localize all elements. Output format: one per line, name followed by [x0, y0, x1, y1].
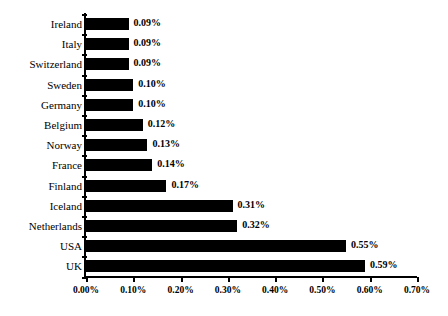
category-label: Sweden: [47, 75, 82, 95]
bar-value-label: 0.17%: [171, 178, 199, 192]
x-axis-tick-label: 0.10%: [120, 284, 146, 296]
y-axis-tick: [82, 216, 87, 218]
category-label: Ireland: [51, 14, 82, 34]
chart-row: 0.14%: [86, 155, 417, 175]
bar: [86, 180, 166, 192]
bar-value-label: 0.09%: [134, 16, 162, 30]
chart-row: 0.59%: [86, 256, 417, 276]
bar-value-label: 0.09%: [134, 56, 162, 70]
bar-value-label: 0.55%: [351, 238, 379, 252]
y-axis-tick: [82, 75, 87, 77]
bar-value-label: 0.13%: [152, 137, 180, 151]
x-axis-tick-label: 0.20%: [168, 284, 194, 296]
bar-value-label: 0.14%: [157, 157, 185, 171]
x-axis-tick-label: 0.60%: [357, 284, 383, 296]
plot-area: 0.09%0.09%0.09%0.10%0.10%0.12%0.13%0.14%…: [86, 14, 417, 277]
category-label: Germany: [41, 95, 82, 115]
bar-value-label: 0.59%: [370, 258, 398, 272]
y-axis-tick: [82, 155, 87, 157]
bar: [86, 18, 129, 30]
x-axis-tick: [322, 277, 324, 282]
y-axis-tick: [82, 54, 87, 56]
bar-chart: 0.09%0.09%0.09%0.10%0.10%0.12%0.13%0.14%…: [0, 0, 448, 316]
chart-row: 0.55%: [86, 236, 417, 256]
y-axis-tick: [82, 196, 87, 198]
y-axis-tick: [82, 176, 87, 178]
category-label: Finland: [48, 176, 82, 196]
x-axis-tick: [133, 277, 135, 282]
bar: [86, 260, 365, 272]
bar: [86, 38, 129, 50]
bar: [86, 119, 143, 131]
y-axis-tick: [82, 14, 87, 16]
y-axis-tick: [82, 34, 87, 36]
category-label: Iceland: [50, 196, 82, 216]
x-axis-tick-label: 0.40%: [262, 284, 288, 296]
x-axis-tick: [275, 277, 277, 282]
chart-row: 0.09%: [86, 14, 417, 34]
chart-row: 0.12%: [86, 115, 417, 135]
chart-row: 0.10%: [86, 75, 417, 95]
category-label: UK: [66, 256, 82, 276]
bar-value-label: 0.09%: [134, 36, 162, 50]
bar-value-label: 0.31%: [238, 198, 266, 212]
bar: [86, 220, 237, 232]
x-axis-tick-label: 0.70%: [404, 284, 430, 296]
y-axis-tick: [82, 256, 87, 258]
bar: [86, 79, 133, 91]
chart-row: 0.32%: [86, 216, 417, 236]
category-label: USA: [60, 236, 82, 256]
y-axis-tick: [82, 236, 87, 238]
x-axis-tick: [228, 277, 230, 282]
category-label: Netherlands: [29, 216, 82, 236]
chart-row: 0.31%: [86, 196, 417, 216]
y-axis-tick: [82, 135, 87, 137]
bar-value-label: 0.10%: [138, 97, 166, 111]
chart-row: 0.13%: [86, 135, 417, 155]
chart-row: 0.09%: [86, 34, 417, 54]
x-axis-tick-label: 0.50%: [309, 284, 335, 296]
bar: [86, 99, 133, 111]
x-axis-tick: [86, 277, 88, 282]
bar: [86, 200, 233, 212]
chart-row: 0.17%: [86, 176, 417, 196]
bar: [86, 159, 152, 171]
bar-value-label: 0.32%: [242, 218, 270, 232]
bar: [86, 139, 147, 151]
x-axis-tick-label: 0.00%: [73, 284, 99, 296]
y-axis-tick: [82, 115, 87, 117]
bar-value-label: 0.12%: [148, 117, 176, 131]
category-label: France: [52, 155, 82, 175]
bar: [86, 58, 129, 70]
category-label: Switzerland: [29, 54, 82, 74]
x-axis-tick-label: 0.30%: [215, 284, 241, 296]
x-axis-tick: [181, 277, 183, 282]
x-axis-tick: [370, 277, 372, 282]
category-label: Italy: [62, 34, 82, 54]
category-label: Norway: [47, 135, 82, 155]
x-axis-tick: [417, 277, 419, 282]
category-label: Belgium: [44, 115, 82, 135]
y-axis-tick: [82, 95, 87, 97]
bar-value-label: 0.10%: [138, 77, 166, 91]
bar: [86, 240, 346, 252]
chart-row: 0.09%: [86, 54, 417, 74]
chart-row: 0.10%: [86, 95, 417, 115]
